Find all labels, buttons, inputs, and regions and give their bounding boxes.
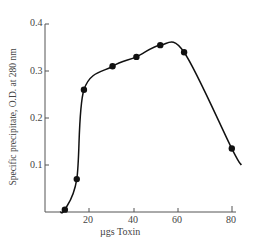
data-points xyxy=(62,42,235,213)
data-point xyxy=(109,63,115,69)
data-point xyxy=(62,206,68,212)
data-curve xyxy=(60,42,241,213)
data-point xyxy=(157,42,163,48)
data-point xyxy=(133,54,139,60)
data-point xyxy=(229,145,235,151)
data-point xyxy=(181,49,187,55)
chart-plot-area xyxy=(0,0,254,246)
data-point xyxy=(74,176,80,182)
axes xyxy=(45,24,236,212)
data-point xyxy=(81,87,87,93)
